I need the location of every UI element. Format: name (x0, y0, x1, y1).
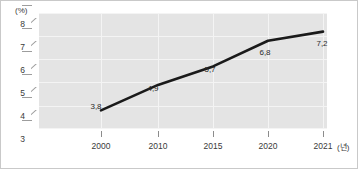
y-tick-connector (31, 41, 40, 52)
y-tick-label-6: 6 (7, 66, 25, 75)
x-axis-unit-label: (년) (337, 141, 349, 152)
gridline-horizontal (39, 13, 327, 14)
gridline-vertical (268, 13, 269, 129)
x-tick-mark (323, 131, 324, 137)
x-tick-label-2000: 2000 (81, 141, 121, 151)
y-tick-connector (31, 87, 40, 98)
x-tick-mark (213, 131, 214, 137)
gridline-horizontal (39, 59, 327, 60)
data-label-2000: 3,8 (79, 102, 113, 111)
gridline-horizontal (39, 128, 327, 129)
y-tick-connector (31, 18, 40, 29)
x-tick-mark (101, 131, 102, 137)
y-axis-unit-label: (%) (15, 6, 27, 15)
x-tick-label-2020: 2020 (248, 141, 288, 151)
gridline-vertical (101, 13, 102, 129)
data-label-2015: 5,7 (193, 65, 227, 74)
data-label-2010: 4,9 (136, 84, 170, 93)
y-tick-connector (31, 0, 40, 6)
gridline-horizontal (39, 36, 327, 37)
x-tick-label-2015: 2015 (193, 141, 233, 151)
data-label-2020: 6,8 (248, 48, 282, 57)
y-tick-connector (31, 64, 40, 75)
chart-figure: (%) 8 7 6 5 4 3 2000 2010 2015 2020 2021… (0, 0, 358, 169)
data-label-2021: 7,2 (305, 39, 339, 48)
y-tick-label-7: 7 (7, 43, 25, 52)
y-tick-label-4: 4 (7, 112, 25, 121)
y-tick-label-5: 5 (7, 89, 25, 98)
x-tick-label-2010: 2010 (138, 141, 178, 151)
gridline-vertical (158, 13, 159, 129)
gridline-vertical (323, 13, 324, 129)
plot-area (39, 13, 327, 129)
x-tick-mark (158, 131, 159, 137)
y-tick-label-8: 8 (7, 20, 25, 29)
y-tick-connector (31, 110, 40, 121)
y-tick-label-3: 3 (7, 135, 25, 144)
x-tick-mark (268, 131, 269, 137)
gridline-horizontal (39, 82, 327, 83)
